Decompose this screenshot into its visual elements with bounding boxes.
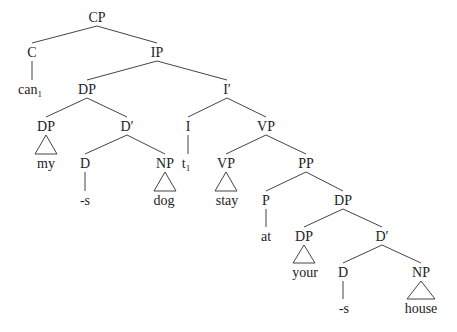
- node-cp: CP: [88, 10, 105, 25]
- tree-edge: [157, 61, 227, 80]
- node-s2: -s: [339, 301, 349, 316]
- tree-edge: [382, 245, 421, 263]
- node-s1: -s: [80, 193, 90, 208]
- tree-edge: [87, 98, 127, 117]
- tree-edge: [32, 26, 97, 43]
- node-can: can1: [18, 82, 42, 99]
- node-house: house: [405, 301, 438, 316]
- node-subscript: 1: [37, 89, 42, 99]
- node-i: I: [186, 119, 191, 134]
- tree-edge: [188, 98, 227, 117]
- node-c: C: [27, 45, 36, 60]
- node-dp-my: DP: [37, 119, 55, 134]
- syntax-tree: CPCIPcan1DPI′DPD′IVPmyDNPt1VPPP-sdogstay…: [0, 0, 457, 332]
- node-pp: PP: [298, 156, 314, 171]
- triangle-edge: [293, 245, 315, 263]
- tree-edge: [266, 172, 306, 191]
- tree-edge: [304, 209, 343, 227]
- tree-edge: [343, 245, 382, 263]
- tree-edge: [266, 135, 306, 154]
- node-dog: dog: [154, 193, 175, 208]
- triangle-edge: [154, 172, 176, 191]
- triangle-edge: [215, 172, 237, 191]
- node-ip: IP: [151, 45, 164, 60]
- node-at: at: [261, 229, 271, 244]
- triangle-edge: [35, 135, 57, 154]
- node-np-house: NP: [412, 265, 430, 280]
- tree-edge: [127, 135, 165, 154]
- node-t: t1: [182, 156, 190, 173]
- tree-labels: CPCIPcan1DPI′DPD′IVPmyDNPt1VPPP-sdogstay…: [18, 10, 437, 316]
- triangle-edge: [407, 281, 435, 299]
- node-d2: D: [338, 265, 348, 280]
- node-dbar1: D′: [120, 119, 133, 134]
- node-your: your: [292, 265, 318, 280]
- node-dbar2: D′: [375, 229, 388, 244]
- tree-edge: [306, 172, 343, 191]
- tree-edge: [97, 26, 157, 43]
- node-dp-your: DP: [295, 229, 313, 244]
- node-dp1: DP: [78, 82, 96, 97]
- tree-edge: [46, 98, 87, 117]
- node-vp-stay: VP: [217, 156, 235, 171]
- tree-edge: [226, 135, 266, 154]
- node-p: P: [262, 193, 270, 208]
- tree-edge: [343, 209, 382, 227]
- tree-edge: [87, 61, 157, 80]
- node-dp2: DP: [334, 193, 352, 208]
- tree-edge: [85, 135, 127, 154]
- node-ibar: I′: [223, 82, 231, 97]
- node-my: my: [37, 156, 55, 171]
- node-vp1: VP: [257, 119, 275, 134]
- node-d1: D: [80, 156, 90, 171]
- node-stay: stay: [216, 193, 239, 208]
- node-subscript: 1: [186, 163, 191, 173]
- tree-edge: [227, 98, 266, 117]
- node-np-dog: NP: [156, 156, 174, 171]
